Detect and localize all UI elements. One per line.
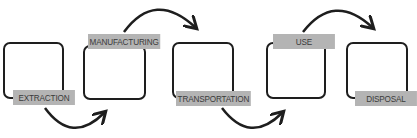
stage-box-use (266, 42, 326, 99)
stage-label-transportation: TRANSPORTATION (176, 91, 251, 106)
arrow-transportation-to-use (222, 108, 282, 128)
arrow-use-to-disposal (303, 11, 372, 32)
stage-box-manufacturing (83, 45, 146, 100)
arrow-manufacturing-to-transportation (124, 10, 195, 32)
stage-label-use: USE (273, 34, 335, 49)
stage-label-extraction: EXTRACTION (13, 90, 75, 105)
stage-label-disposal: DISPOSAL (355, 91, 417, 106)
stage-label-manufacturing: MANUFACTURING (88, 34, 160, 49)
arrow-extraction-to-manufacturing (45, 108, 104, 128)
